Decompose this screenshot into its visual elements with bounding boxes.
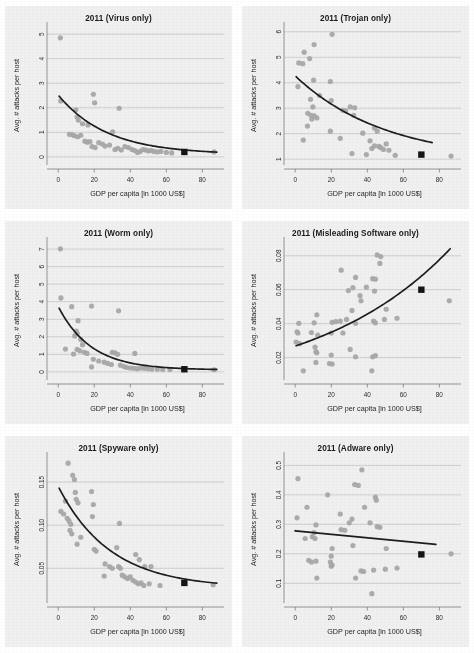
y-tick-label: 3 bbox=[275, 106, 282, 110]
data-point bbox=[330, 546, 335, 551]
data-point bbox=[393, 153, 398, 158]
data-point bbox=[295, 476, 300, 481]
data-point bbox=[352, 105, 357, 110]
highlight-marker bbox=[181, 580, 187, 586]
data-point bbox=[132, 351, 137, 356]
multi-panel-scatter-figure: 2011 (Virus only)012345020406080GDP per … bbox=[0, 0, 474, 653]
data-point bbox=[308, 97, 313, 102]
panel-virus: 2011 (Virus only)012345020406080GDP per … bbox=[5, 6, 232, 209]
data-point bbox=[356, 483, 361, 488]
y-tick-label: 0.15 bbox=[38, 475, 45, 488]
data-point bbox=[377, 525, 382, 530]
data-point bbox=[338, 136, 343, 141]
data-point bbox=[377, 261, 382, 266]
data-point bbox=[133, 552, 138, 557]
plot-area-spyware: 0.050.100.15020406080GDP per capita [in … bbox=[5, 436, 232, 647]
plot-area-misleading: 0.020.040.060.08020406080GDP per capita … bbox=[242, 221, 469, 424]
plot-area-adware: 0.10.20.30.40.5020406080GDP per capita [… bbox=[242, 436, 469, 647]
data-point bbox=[329, 352, 334, 357]
data-point bbox=[350, 285, 355, 290]
data-point bbox=[92, 100, 97, 105]
panel-misleading: 2011 (Misleading Software only)0.020.040… bbox=[242, 221, 469, 424]
data-point bbox=[96, 358, 101, 363]
x-tick-label: 80 bbox=[436, 176, 444, 183]
y-axis-title: Avg. # attacks per host bbox=[249, 59, 258, 132]
data-point bbox=[63, 346, 68, 351]
data-point bbox=[312, 320, 317, 325]
data-point bbox=[330, 361, 335, 366]
data-point bbox=[330, 32, 335, 37]
data-point bbox=[381, 147, 386, 152]
y-tick-label: 6 bbox=[38, 264, 45, 268]
highlight-marker bbox=[418, 151, 424, 157]
data-point bbox=[360, 131, 365, 136]
y-tick-label: 1 bbox=[275, 157, 282, 161]
data-point bbox=[333, 319, 338, 324]
data-point bbox=[90, 514, 95, 519]
data-point bbox=[362, 505, 367, 510]
x-tick-label: 40 bbox=[127, 614, 135, 621]
y-tick-label: 1 bbox=[38, 352, 45, 356]
y-tick-label: 0.5 bbox=[275, 460, 282, 469]
highlight-marker bbox=[418, 551, 424, 557]
data-point bbox=[312, 344, 317, 349]
y-tick-label: 0.04 bbox=[275, 317, 282, 330]
data-point bbox=[361, 569, 366, 574]
data-point bbox=[102, 561, 107, 566]
x-tick-label: 0 bbox=[293, 391, 297, 398]
x-tick-label: 60 bbox=[400, 614, 408, 621]
data-point bbox=[295, 330, 300, 335]
x-tick-label: 40 bbox=[364, 176, 372, 183]
data-point bbox=[307, 56, 312, 61]
data-point bbox=[157, 583, 162, 588]
data-point bbox=[346, 288, 351, 293]
data-point bbox=[75, 318, 80, 323]
x-tick-label: 60 bbox=[163, 176, 171, 183]
data-point bbox=[314, 312, 319, 317]
data-point bbox=[301, 368, 306, 373]
y-tick-label: 0.3 bbox=[275, 519, 282, 528]
data-point bbox=[448, 551, 453, 556]
data-point bbox=[328, 129, 333, 134]
data-point bbox=[382, 317, 387, 322]
y-tick-label: 0.08 bbox=[275, 249, 282, 262]
data-point bbox=[367, 138, 372, 143]
data-point bbox=[329, 554, 334, 559]
data-point bbox=[93, 145, 98, 150]
x-tick-label: 20 bbox=[91, 176, 99, 183]
data-point bbox=[91, 502, 96, 507]
data-point bbox=[118, 566, 123, 571]
data-point bbox=[394, 565, 399, 570]
x-tick-label: 20 bbox=[91, 391, 99, 398]
data-point bbox=[303, 536, 308, 541]
data-point bbox=[80, 342, 85, 347]
data-point bbox=[114, 545, 119, 550]
data-point bbox=[339, 268, 344, 273]
x-tick-label: 40 bbox=[364, 614, 372, 621]
y-tick-label: 0.4 bbox=[275, 490, 282, 499]
highlight-marker bbox=[418, 286, 424, 292]
data-point bbox=[295, 84, 300, 89]
data-point bbox=[367, 520, 372, 525]
data-point bbox=[72, 477, 77, 482]
data-point bbox=[309, 330, 314, 335]
data-point bbox=[394, 316, 399, 321]
highlight-marker bbox=[181, 366, 187, 372]
data-point bbox=[305, 123, 310, 128]
x-tick-label: 60 bbox=[163, 614, 171, 621]
data-point bbox=[386, 148, 391, 153]
data-point bbox=[359, 467, 364, 472]
data-point bbox=[117, 521, 122, 526]
y-tick-label: 0 bbox=[38, 370, 45, 374]
data-point bbox=[69, 531, 74, 536]
data-point bbox=[373, 353, 378, 358]
x-tick-label: 20 bbox=[91, 614, 99, 621]
y-tick-label: 2 bbox=[38, 106, 45, 110]
y-tick-label: 0.06 bbox=[275, 283, 282, 296]
data-point bbox=[378, 254, 383, 259]
data-point bbox=[369, 368, 374, 373]
highlight-marker bbox=[181, 149, 187, 155]
plot-area-virus: 012345020406080GDP per capita [in 1000 U… bbox=[5, 6, 232, 209]
fit-curve bbox=[59, 308, 217, 369]
panel-worm: 2011 (Worm only)01234567020406080GDP per… bbox=[5, 221, 232, 424]
